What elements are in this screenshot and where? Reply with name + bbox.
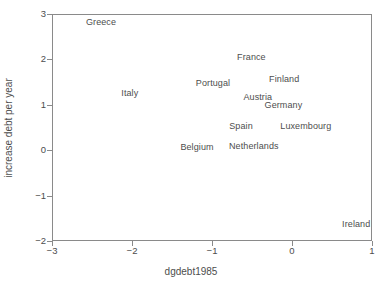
- x-tick-label: 1: [369, 246, 374, 256]
- y-tick-label: 1: [41, 100, 46, 110]
- point-label-luxembourg: Luxembourg: [280, 121, 331, 131]
- y-tick-label: 2: [41, 54, 46, 64]
- point-label-belgium: Belgium: [180, 142, 213, 152]
- y-tick-label: −1: [35, 191, 46, 201]
- x-tick-label: −1: [207, 246, 218, 256]
- y-tick-mark: [47, 14, 52, 15]
- point-label-france: France: [237, 52, 266, 62]
- y-tick-mark: [47, 196, 52, 197]
- x-tick-mark: [372, 241, 373, 246]
- x-tick-label: 0: [289, 246, 294, 256]
- point-label-portugal: Portugal: [196, 78, 230, 88]
- y-axis-ticks: 3210−1−2: [0, 0, 46, 291]
- x-tick-mark: [52, 241, 53, 246]
- x-tick-mark: [292, 241, 293, 246]
- y-tick-label: −2: [35, 236, 46, 246]
- y-tick-label: 0: [41, 145, 46, 155]
- scatter-plot-figure: increase debt per year 3210−1−2 GreeceFr…: [0, 0, 382, 291]
- point-label-ireland: Ireland: [342, 219, 370, 229]
- x-tick-label: −3: [47, 246, 58, 256]
- y-tick-label: 3: [41, 9, 46, 19]
- point-label-germany: Germany: [265, 100, 303, 110]
- point-label-greece: Greece: [86, 17, 116, 27]
- point-label-italy: Italy: [121, 88, 138, 98]
- x-axis-title: dgdebt1985: [0, 266, 382, 277]
- x-tick-mark: [212, 241, 213, 246]
- y-tick-mark: [47, 150, 52, 151]
- y-tick-mark: [47, 105, 52, 106]
- x-tick-mark: [132, 241, 133, 246]
- point-label-finland: Finland: [269, 74, 299, 84]
- y-tick-mark: [47, 59, 52, 60]
- point-label-spain: Spain: [229, 121, 253, 131]
- point-label-netherlands: Netherlands: [229, 141, 279, 151]
- plot-area: GreeceFranceFinlandPortugalItalyAustriaG…: [52, 14, 372, 241]
- x-tick-label: −2: [127, 246, 138, 256]
